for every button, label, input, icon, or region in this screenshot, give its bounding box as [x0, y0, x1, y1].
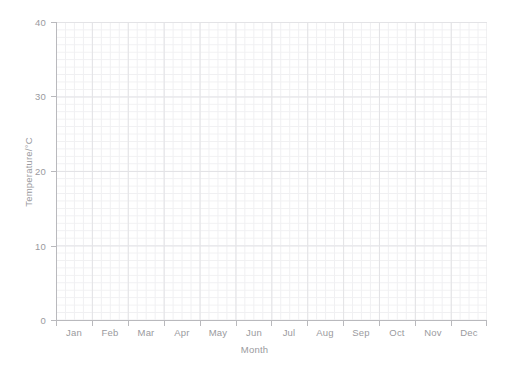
x-axis-tick	[486, 321, 487, 326]
x-axis-tick-label-jan: Jan	[56, 327, 92, 338]
y-axis-tick	[51, 246, 56, 247]
x-axis-tick	[236, 321, 237, 326]
x-axis-tick	[451, 321, 452, 326]
y-axis-tick	[51, 22, 56, 23]
temperature-month-chart: 40 30 20 10 0 Jan Feb Mar Apr May Jun Ju…	[0, 0, 509, 378]
x-axis-tick-label-sep: Sep	[343, 327, 379, 338]
x-axis-tick-label-aug: Aug	[307, 327, 343, 338]
y-axis-title: Temperature/°C	[22, 22, 36, 322]
x-axis-tick	[415, 321, 416, 326]
x-axis-tick-label-dec: Dec	[451, 327, 487, 338]
x-axis-tick	[307, 321, 308, 326]
x-axis-tick-label-feb: Feb	[92, 327, 128, 338]
x-axis-tick	[92, 321, 93, 326]
x-axis-tick	[271, 321, 272, 326]
x-axis-tick	[56, 321, 57, 326]
y-axis-tick	[51, 96, 56, 97]
x-axis-tick-label-jul: Jul	[271, 327, 307, 338]
y-axis-tick	[51, 171, 56, 172]
x-axis-tick	[128, 321, 129, 326]
x-axis-tick-label-oct: Oct	[379, 327, 415, 338]
major-gridlines	[56, 22, 487, 320]
x-axis-tick	[343, 321, 344, 326]
x-axis-tick	[200, 321, 201, 326]
x-axis-tick	[379, 321, 380, 326]
x-axis-tick-label-mar: Mar	[128, 327, 164, 338]
x-axis-tick-label-may: May	[200, 327, 236, 338]
x-axis-title: Month	[0, 344, 509, 355]
plot-area	[56, 22, 487, 320]
x-axis-tick-label-jun: Jun	[236, 327, 272, 338]
x-axis-tick-label-apr: Apr	[164, 327, 200, 338]
y-axis-line	[56, 22, 57, 321]
x-axis-tick	[164, 321, 165, 326]
x-axis-tick-label-nov: Nov	[415, 327, 451, 338]
